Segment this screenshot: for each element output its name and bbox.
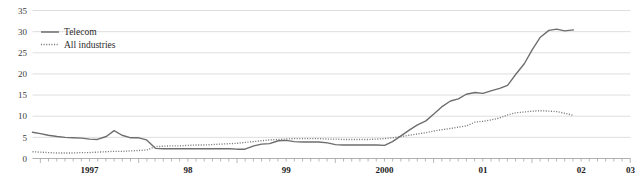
y-axis-tick-label: 5: [23, 133, 28, 143]
x-axis-tick-labels: 199798992000010203: [81, 165, 636, 175]
y-axis-tick-label: 25: [18, 48, 28, 58]
gridlines: [33, 11, 631, 138]
x-axis-minor-ticks: [40, 159, 630, 164]
x-axis-tick-label: 1997: [81, 165, 100, 175]
y-axis-tick-label: 15: [18, 90, 28, 100]
y-axis-tick-label: 0: [23, 154, 28, 164]
y-axis-tick-labels: 05101520253035: [18, 6, 28, 164]
y-axis-tick-label: 35: [18, 6, 28, 16]
legend-label: All industries: [64, 40, 116, 50]
chart-legend: TelecomAll industries: [41, 27, 116, 50]
line-chart: 05101520253035 199798992000010203 Teleco…: [0, 0, 637, 179]
y-axis-tick-label: 30: [18, 27, 28, 37]
x-axis-tick-label: 99: [282, 165, 292, 175]
y-axis-tick-label: 20: [18, 69, 28, 79]
x-axis-tick-label: 03: [626, 165, 636, 175]
x-axis-tick-label: 02: [577, 165, 587, 175]
chart-container: 05101520253035 199798992000010203 Teleco…: [0, 0, 637, 179]
x-axis-tick-label: 01: [478, 165, 488, 175]
x-axis-tick-label: 2000: [376, 165, 395, 175]
x-axis-tick-label: 98: [183, 165, 193, 175]
legend-label: Telecom: [64, 27, 97, 37]
y-axis-tick-label: 10: [18, 111, 28, 121]
series-line-all-industries: [33, 111, 574, 153]
